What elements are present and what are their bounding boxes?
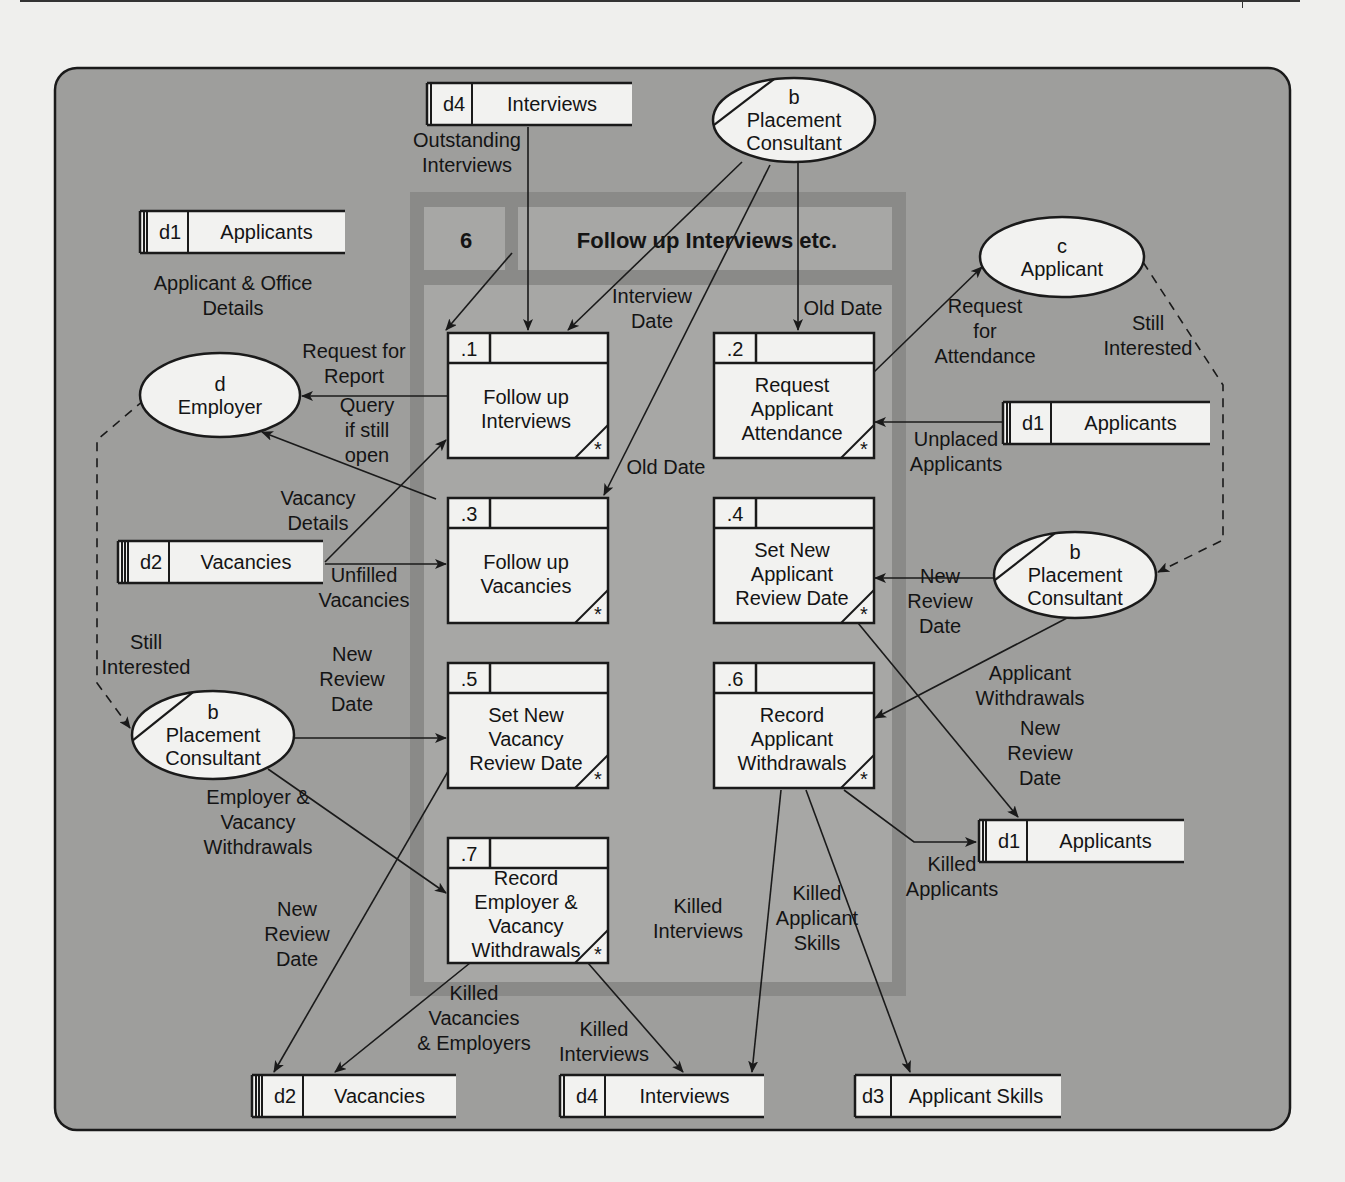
entity-name: Placement	[747, 109, 842, 131]
flow-label: Applicant & Office	[154, 272, 313, 294]
flow-label: Interested	[102, 656, 191, 678]
flow-label: Interviews	[422, 154, 512, 176]
data-store-d1[interactable]: d1Applicants	[979, 820, 1184, 862]
process-box-6[interactable]: *.6RecordApplicantWithdrawals	[714, 663, 874, 790]
process-box-7[interactable]: *.7RecordEmployer &VacancyWithdrawals	[448, 838, 608, 965]
data-store-name: Applicants	[1059, 830, 1151, 852]
flow-label: Vacancy	[220, 811, 295, 833]
flow-label: Unfilled	[331, 564, 398, 586]
process-label: Vacancy	[488, 728, 563, 750]
data-flow-diagram: 6 Follow up Interviews etc. d4Interviews…	[0, 0, 1345, 1182]
flow-label: Review	[1007, 742, 1073, 764]
process-box-1[interactable]: *.1Follow upInterviews	[448, 333, 608, 460]
data-store-name: Applicant Skills	[909, 1085, 1044, 1107]
data-store-id: d2	[274, 1085, 296, 1107]
flow-label: New	[277, 898, 318, 920]
flow-label: Date	[919, 615, 961, 637]
external-entity-d[interactable]: dEmployer	[140, 353, 300, 437]
flow-label: Vacancy	[280, 487, 355, 509]
external-entity-b[interactable]: bPlacementConsultant	[713, 78, 875, 162]
flow-label: Applicant	[989, 662, 1072, 684]
process-label: Vacancy	[488, 915, 563, 937]
process-label: Interviews	[481, 410, 571, 432]
asterisk-icon: *	[860, 603, 868, 625]
asterisk-icon: *	[594, 943, 602, 965]
flow-label: Applicants	[910, 453, 1002, 475]
flow-label: if still	[345, 419, 389, 441]
flow-label: Killed	[450, 982, 499, 1004]
process-id: .7	[461, 843, 478, 865]
process-label: Attendance	[741, 422, 842, 444]
entity-id: b	[207, 701, 218, 723]
flow-label: Killed	[928, 853, 977, 875]
entity-name: Employer	[178, 396, 263, 418]
process-label: Set New	[488, 704, 564, 726]
process-id: .1	[461, 338, 478, 360]
flow-label: Query	[340, 394, 394, 416]
data-store-id: d4	[576, 1085, 598, 1107]
asterisk-icon: *	[860, 768, 868, 790]
asterisk-icon: *	[594, 438, 602, 460]
flow-label: Date	[331, 693, 373, 715]
data-store-id: d2	[140, 551, 162, 573]
data-store-id: d3	[862, 1085, 884, 1107]
process-id: .2	[727, 338, 744, 360]
process-label: Record	[494, 867, 558, 889]
external-entity-c[interactable]: cApplicant	[980, 217, 1144, 297]
data-store-name: Applicants	[1084, 412, 1176, 434]
process-label: Follow up	[483, 551, 569, 573]
process-label: Applicant	[751, 398, 834, 420]
asterisk-icon: *	[860, 438, 868, 460]
data-store-id: d1	[159, 221, 181, 243]
data-store-d4[interactable]: d4Interviews	[427, 83, 632, 125]
process-label: Set New	[754, 539, 830, 561]
data-store-name: Interviews	[507, 93, 597, 115]
flow-label: Vacancies	[429, 1007, 520, 1029]
process-label: Follow up	[483, 386, 569, 408]
flow-label: Date	[631, 310, 673, 332]
data-store-d1[interactable]: d1Applicants	[1003, 402, 1210, 444]
entity-id: b	[788, 86, 799, 108]
flow-label: Report	[324, 365, 384, 387]
process-box-4[interactable]: *.4Set NewApplicantReview Date	[714, 498, 874, 625]
external-entity-b[interactable]: bPlacementConsultant	[132, 691, 294, 779]
asterisk-icon: *	[594, 768, 602, 790]
external-entity-b[interactable]: bPlacementConsultant	[994, 532, 1156, 618]
flow-label: Vacancies	[319, 589, 410, 611]
data-store-id: d4	[443, 93, 465, 115]
entity-id: b	[1069, 541, 1080, 563]
process-id: .4	[727, 503, 744, 525]
data-store-d1[interactable]: d1Applicants	[140, 211, 345, 253]
entity-name: Consultant	[746, 132, 842, 154]
flow-label: Request	[948, 295, 1023, 317]
process-label: Withdrawals	[472, 939, 581, 961]
entity-name: Applicant	[1021, 258, 1104, 280]
data-store-d4[interactable]: d4Interviews	[560, 1075, 764, 1117]
data-store-d3[interactable]: d3Applicant Skills	[855, 1075, 1061, 1117]
process-box-5[interactable]: *.5Set NewVacancyReview Date	[448, 663, 608, 790]
entity-name: Placement	[1028, 564, 1123, 586]
flow-label: Review	[907, 590, 973, 612]
process-box-2[interactable]: *.2RequestApplicantAttendance	[714, 333, 874, 460]
process-box-3[interactable]: *.3Follow upVacancies	[448, 498, 608, 625]
flow-label: Interviews	[559, 1043, 649, 1065]
data-store-id: d1	[1022, 412, 1044, 434]
asterisk-icon: *	[594, 603, 602, 625]
data-store-name: Vacancies	[201, 551, 292, 573]
flow-label: Review	[319, 668, 385, 690]
flow-label: Still	[130, 631, 162, 653]
flow-label: New	[1020, 717, 1061, 739]
flow-label: Withdrawals	[204, 836, 313, 858]
entity-id: d	[214, 373, 225, 395]
flow-label: New	[920, 565, 961, 587]
data-store-name: Interviews	[639, 1085, 729, 1107]
flow-label: Interested	[1104, 337, 1193, 359]
data-store-d2[interactable]: d2Vacancies	[252, 1075, 456, 1117]
flow-label: Applicants	[906, 878, 998, 900]
data-store-d2[interactable]: d2Vacancies	[118, 541, 323, 583]
process-label: Record	[760, 704, 824, 726]
process-label: Applicant	[751, 563, 834, 585]
flow-label: Applicant	[776, 907, 859, 929]
flow-label: Interview	[612, 285, 693, 307]
flow-label: Old Date	[804, 297, 883, 319]
